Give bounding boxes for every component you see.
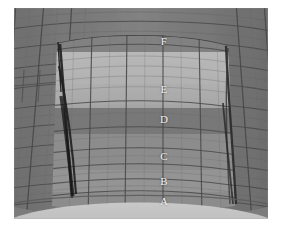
mesh-scene [14, 8, 268, 219]
mesh-figure: F E D C B A [14, 8, 268, 219]
mesh-canvas [14, 8, 268, 219]
figure-root: F E D C B A [0, 0, 283, 230]
